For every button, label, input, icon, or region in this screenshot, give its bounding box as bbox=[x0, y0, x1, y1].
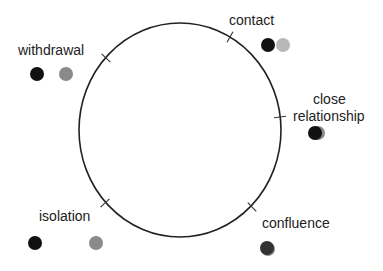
dot-isolation-1 bbox=[89, 236, 103, 250]
tick-marks bbox=[101, 32, 286, 211]
dot-contact-1 bbox=[261, 38, 275, 52]
label-isolation: isolation bbox=[39, 208, 90, 224]
dot-isolation-0 bbox=[28, 236, 42, 250]
dot-contact-0 bbox=[276, 38, 290, 52]
stage-labels: withdrawal contact close relationship is… bbox=[17, 12, 365, 231]
label-withdrawal: withdrawal bbox=[17, 42, 84, 58]
cycle-circle bbox=[79, 23, 281, 237]
dot-withdrawal-1 bbox=[59, 67, 73, 81]
dot-close-relationship-1 bbox=[308, 126, 322, 140]
label-close: close bbox=[313, 91, 346, 107]
tick-close-relationship bbox=[274, 116, 286, 117]
tick-contact bbox=[227, 32, 233, 42]
diagram-svg: withdrawal contact close relationship is… bbox=[0, 0, 383, 271]
dot-withdrawal-0 bbox=[30, 67, 44, 81]
label-relationship: relationship bbox=[293, 108, 365, 124]
circular-stage-diagram: withdrawal contact close relationship is… bbox=[0, 0, 383, 271]
dot-confluence-1 bbox=[260, 241, 274, 255]
label-contact: contact bbox=[229, 12, 274, 28]
label-confluence: confluence bbox=[262, 215, 330, 231]
